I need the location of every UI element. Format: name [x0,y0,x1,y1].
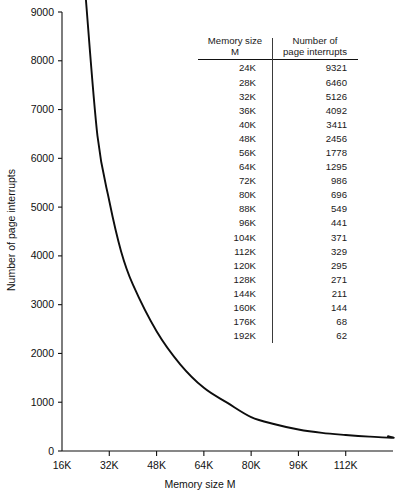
table-cell-interrupts: 986 [272,176,358,186]
table-cell-memory: 56K [198,148,272,158]
y-tick-label: 2000 [31,347,55,359]
table-header: Memory size M Number of page interrupts [198,36,358,57]
table-row: 36K4092 [198,103,358,117]
table-cell-memory: 160K [198,303,272,313]
x-tick-label: 112K [334,459,358,471]
table-row: 104K371 [198,230,358,244]
table-cell-interrupts: 9321 [272,63,358,73]
table-cell-memory: 24K [198,63,272,73]
table-cell-memory: 96K [198,218,272,228]
x-tick-label: 16K [53,459,72,471]
table-cell-interrupts: 62 [272,331,358,341]
table-cell-interrupts: 329 [272,247,358,257]
table-row: 96K441 [198,216,358,230]
table-cell-memory: 32K [198,92,272,102]
table-cell-memory: 128K [198,275,272,285]
x-tick-label: 80K [242,459,261,471]
table-cell-interrupts: 696 [272,190,358,200]
y-axis-title: Number of page interrupts [5,169,17,291]
data-table: Memory size M Number of page interrupts … [198,36,358,343]
table-row: 112K329 [198,244,358,258]
table-row: 144K211 [198,287,358,301]
table-cell-interrupts: 4092 [272,106,358,116]
table-cell-interrupts: 441 [272,218,358,228]
y-tick-label: 7000 [31,103,55,115]
table-cell-memory: 36K [198,106,272,116]
table-row: 128K271 [198,273,358,287]
y-tick-label: 6000 [31,152,55,164]
table-cell-interrupts: 549 [272,204,358,214]
table-cell-interrupts: 211 [272,289,358,299]
table-cell-interrupts: 2456 [272,134,358,144]
table-row: 64K1295 [198,160,358,174]
x-axis-tick-labels: 16K32K48K64K80K96K112K [53,459,358,471]
x-tick-label: 64K [195,459,214,471]
table-cell-memory: 80K [198,190,272,200]
table-cell-interrupts: 271 [272,275,358,285]
table-cell-interrupts: 1295 [272,162,358,172]
y-tick-label: 4000 [31,249,55,261]
table-row: 56K1778 [198,146,358,160]
table-cell-memory: 192K [198,331,272,341]
table-header-memory-line1: Memory size [198,36,272,47]
table-header-memory-line2: M [198,47,272,58]
table-row: 72K986 [198,174,358,188]
table-row: 192K62 [198,329,358,343]
x-axis-title: Memory size M [164,478,235,490]
table-column-divider [272,61,273,343]
y-axis-ticks [58,12,62,451]
x-tick-label: 32K [100,459,119,471]
y-tick-label: 0 [48,445,54,457]
table-row: 32K5126 [198,89,358,103]
table-cell-interrupts: 3411 [272,120,358,130]
table-header-rule [198,59,358,60]
table-header-interrupts-line2: page interrupts [272,47,358,58]
figure-container: 0100020003000400050006000700080009000 16… [0,0,401,494]
table-cell-interrupts: 1778 [272,148,358,158]
table-row: 88K549 [198,202,358,216]
table-cell-memory: 120K [198,261,272,271]
table-header-interrupts: Number of page interrupts [272,36,358,57]
x-tick-label: 96K [289,459,308,471]
table-cell-memory: 176K [198,317,272,327]
table-cell-interrupts: 144 [272,303,358,313]
table-cell-interrupts: 5126 [272,92,358,102]
table-cell-memory: 64K [198,162,272,172]
y-tick-label: 1000 [31,396,55,408]
table-row: 28K6460 [198,75,358,89]
y-tick-label: 3000 [31,298,55,310]
table-cell-memory: 72K [198,176,272,186]
table-cell-interrupts: 68 [272,317,358,327]
table-cell-memory: 48K [198,134,272,144]
y-tick-label: 5000 [31,201,55,213]
table-header-interrupts-line1: Number of [272,36,358,47]
table-row: 120K295 [198,259,358,273]
x-axis-ticks [109,451,345,456]
table-cell-memory: 28K [198,78,272,88]
table-cell-memory: 104K [198,233,272,243]
table-cell-memory: 144K [198,289,272,299]
table-cell-memory: 40K [198,120,272,130]
table-row: 40K3411 [198,118,358,132]
y-tick-label: 8000 [31,54,55,66]
x-tick-label: 48K [147,459,166,471]
table-row: 80K696 [198,188,358,202]
table-cell-memory: 112K [198,247,272,257]
table-cell-interrupts: 295 [272,261,358,271]
y-axis-tick-labels: 0100020003000400050006000700080009000 [31,6,55,457]
table-body: 24K932128K646032K512636K409240K341148K24… [198,61,358,343]
y-tick-label: 9000 [31,6,55,18]
table-cell-interrupts: 371 [272,233,358,243]
table-cell-interrupts: 6460 [272,78,358,88]
table-cell-memory: 88K [198,204,272,214]
table-row: 160K144 [198,301,358,315]
table-row: 48K2456 [198,132,358,146]
table-header-memory: Memory size M [198,36,272,57]
table-row: 176K68 [198,315,358,329]
table-row: 24K9321 [198,61,358,75]
